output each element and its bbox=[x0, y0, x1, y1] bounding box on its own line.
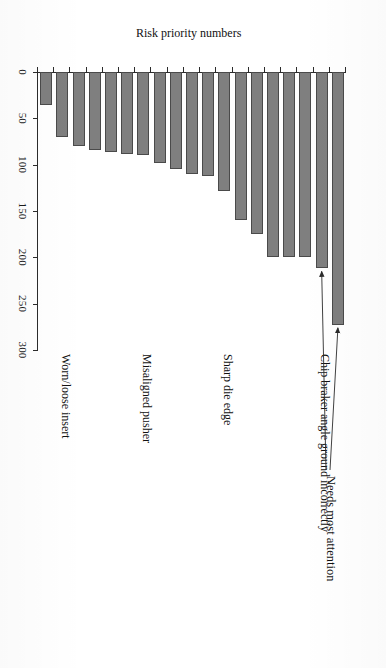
category-label: Sharp die edge bbox=[220, 354, 235, 425]
value-tick-label: 300 bbox=[17, 320, 28, 380]
bar-14 bbox=[105, 72, 117, 152]
annotation-needs-most-attention: Needs most attention bbox=[323, 476, 338, 582]
bar-series bbox=[38, 72, 346, 350]
category-label: Worn/loose insert bbox=[58, 354, 73, 439]
value-tick bbox=[33, 350, 38, 351]
bar-6 bbox=[235, 72, 247, 220]
bar-15 bbox=[89, 72, 101, 150]
bar-1 bbox=[316, 72, 328, 268]
bar-12 bbox=[137, 72, 149, 155]
bar-3 bbox=[283, 72, 295, 257]
bar-17 bbox=[56, 72, 68, 137]
category-label: Misaligned pusher bbox=[139, 354, 154, 443]
bar-10 bbox=[170, 72, 182, 169]
value-axis-title: Risk priority numbers bbox=[136, 26, 241, 41]
bar-7 bbox=[218, 72, 230, 191]
bar-0 bbox=[332, 72, 344, 325]
bar-9 bbox=[186, 72, 198, 174]
bar-18 bbox=[40, 72, 52, 105]
chart-stage: 050100150200250300 Chip braker angle gro… bbox=[0, 0, 386, 668]
bar-2 bbox=[300, 72, 312, 257]
bar-8 bbox=[202, 72, 214, 176]
bar-4 bbox=[267, 72, 279, 257]
bar-5 bbox=[251, 72, 263, 234]
bar-16 bbox=[73, 72, 85, 146]
plot-area: 050100150200250300 Chip braker angle gro… bbox=[0, 0, 386, 668]
bar-13 bbox=[121, 72, 133, 154]
bar-11 bbox=[154, 72, 166, 163]
